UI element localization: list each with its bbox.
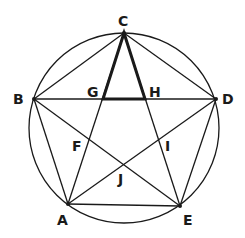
vertex-dot-c (122, 31, 126, 35)
segment-cd (124, 33, 216, 99)
label-i: I (165, 138, 170, 154)
label-j: J (117, 171, 123, 187)
label-d: D (222, 91, 234, 107)
label-b: B (13, 91, 24, 107)
segment-ea (68, 204, 180, 206)
pentagram-diagram: A B C D E F G H I J (0, 0, 245, 238)
segment-da (68, 99, 216, 204)
label-g: G (87, 84, 99, 100)
label-a: A (57, 212, 68, 228)
vertex-dot-a (66, 202, 70, 206)
vertex-dot-e (178, 204, 182, 208)
segment-de (180, 99, 216, 206)
point-labels: A B C D E F G H I J (13, 13, 234, 228)
label-h: H (149, 84, 161, 100)
circumscribed-circle (29, 33, 219, 223)
segment-bc (34, 33, 124, 99)
vertex-dot-d (214, 97, 218, 101)
label-c: C (118, 13, 128, 29)
vertex-dot-b (32, 97, 36, 101)
label-e: E (183, 212, 193, 228)
label-f: F (72, 138, 82, 154)
segment-eb (34, 99, 180, 206)
